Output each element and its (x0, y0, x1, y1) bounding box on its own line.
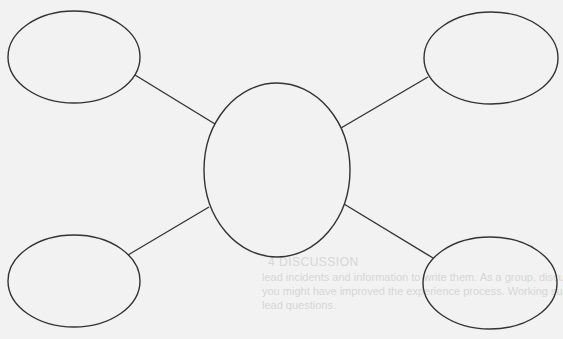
bubble-top-left (8, 11, 140, 103)
connector-top-left-to-center (135, 75, 215, 124)
connector-bottom-left-to-center (128, 207, 209, 255)
connector-lines (128, 75, 433, 258)
connector-top-right-to-center (341, 77, 428, 128)
bubble-nodes (8, 11, 558, 329)
diagram-canvas: 4 DISCUSSION lead incidents and informat… (0, 0, 563, 339)
connector-bottom-right-to-center (344, 204, 433, 258)
bubble-center (204, 83, 350, 257)
bubble-bottom-left (8, 235, 140, 327)
bubble-bottom-right (423, 237, 557, 329)
bubble-top-right (424, 12, 558, 104)
concept-map (0, 0, 563, 339)
